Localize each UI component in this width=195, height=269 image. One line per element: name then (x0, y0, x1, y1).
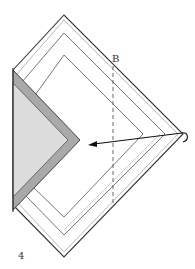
arrow-head-icon (88, 141, 97, 147)
layer-2-edge-inner (64, 134, 160, 230)
step-number: 4 (18, 250, 24, 261)
fold-line-label: B (112, 53, 119, 64)
origami-diagram: B 4 (0, 0, 195, 269)
